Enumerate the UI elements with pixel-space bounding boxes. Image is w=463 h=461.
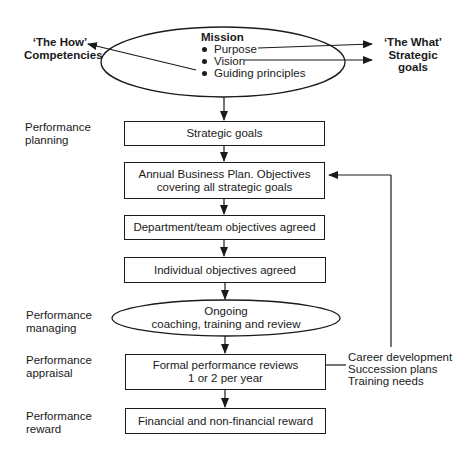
mission-item-purpose: Purpose xyxy=(200,43,305,55)
formal-reviews-box: Formal performance reviews 1 or 2 per ye… xyxy=(125,354,326,390)
ongoing-coaching-ellipse-text: Ongoing coaching, training and review xyxy=(112,300,340,336)
department-objectives-box: Department/team objectives agreed xyxy=(124,215,325,240)
feedback-item-succession: Succession plans xyxy=(348,363,452,375)
annual-business-plan-box: Annual Business Plan. Objectives coverin… xyxy=(124,162,325,199)
mission-item-guiding-principles: Guiding principles xyxy=(200,67,305,79)
individual-objectives-box: Individual objectives agreed xyxy=(124,257,326,283)
stage-label-appraisal: Performance appraisal xyxy=(26,354,92,379)
the-how-label: ‘The How’ Competencies xyxy=(24,36,96,61)
mission-block: Mission Purpose Vision Guiding principle… xyxy=(200,31,305,79)
reward-box: Financial and non-financial reward xyxy=(125,408,326,434)
the-what-label: ‘The What’ Strategic goals xyxy=(376,36,450,74)
mission-item-vision: Vision xyxy=(200,55,305,67)
mission-title: Mission xyxy=(200,31,305,43)
stage-label-managing: Performance managing xyxy=(26,309,92,334)
stage-label-reward: Performance reward xyxy=(26,410,92,435)
bullet-icon xyxy=(202,71,207,76)
bullet-icon xyxy=(202,47,207,52)
feedback-item-training: Training needs xyxy=(348,375,452,387)
feedback-list: Career development Succession plans Trai… xyxy=(348,351,452,387)
strategic-goals-box: Strategic goals xyxy=(124,121,325,146)
feedback-item-career: Career development xyxy=(348,351,452,363)
bullet-icon xyxy=(202,59,207,64)
stage-label-planning: Performance planning xyxy=(25,121,91,146)
